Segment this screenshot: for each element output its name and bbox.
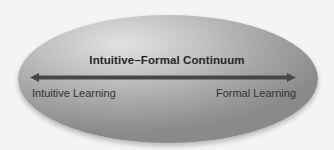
double-arrow-icon	[30, 73, 296, 82]
diagram-title: Intuitive–Formal Continuum	[0, 54, 334, 66]
formal-learning-label: Formal Learning	[216, 87, 296, 99]
intuitive-learning-label: Intuitive Learning	[32, 87, 116, 99]
